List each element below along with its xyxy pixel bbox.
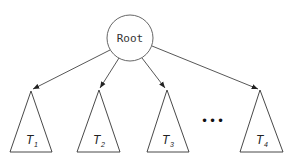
subtree-t2-index: 2 xyxy=(100,141,105,148)
root-label: Root xyxy=(117,32,144,45)
edge-root-t3 xyxy=(142,58,165,88)
tree-diagram: Root T 1 T 2 T 3 ••• T 4 xyxy=(0,0,289,163)
edge-root-t1 xyxy=(33,50,110,89)
edge-root-t4 xyxy=(152,46,258,89)
subtree-t4-index: 4 xyxy=(264,141,268,148)
subtree-t1-index: 1 xyxy=(34,141,38,148)
ellipsis: ••• xyxy=(201,114,225,128)
subtree-t3-index: 3 xyxy=(170,141,174,148)
edge-root-t2 xyxy=(100,58,119,88)
